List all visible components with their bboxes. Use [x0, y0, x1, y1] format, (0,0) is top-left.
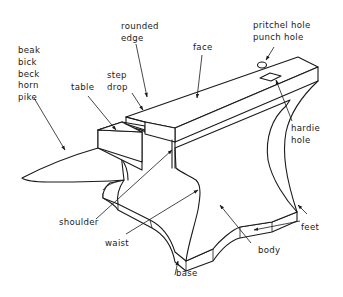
label-horn: horn [18, 80, 39, 90]
label-beak: beak [18, 45, 40, 55]
pritchel-hole [258, 62, 267, 68]
label-hardie: hardie [291, 123, 320, 133]
label-face: face [193, 42, 213, 52]
label-hardie-hole: hole [291, 135, 311, 145]
label-base: base [176, 268, 198, 278]
label-shoulder: shoulder [59, 217, 99, 227]
label-punch-hole: punch hole [253, 32, 304, 42]
label-pritchel-hole: pritchel hole [253, 20, 311, 30]
anvil-diagram: beak bick beck horn pike rounded edge ta… [0, 0, 343, 297]
label-edge: edge [121, 33, 144, 43]
label-waist: waist [105, 238, 129, 248]
label-table: table [71, 82, 94, 92]
label-feet: feet [301, 222, 319, 232]
anvil-drawing [22, 57, 318, 271]
label-pike: pike [18, 92, 37, 102]
label-beck: beck [18, 69, 40, 79]
label-body: body [258, 245, 280, 255]
label-bick: bick [18, 57, 37, 67]
label-step: step [107, 70, 127, 80]
label-drop: drop [107, 82, 128, 92]
label-rounded: rounded [121, 21, 159, 31]
